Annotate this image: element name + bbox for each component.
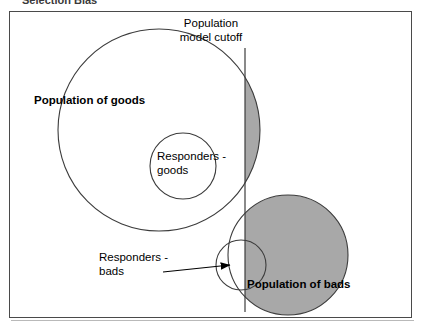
responders-bads-leader-arrow [163,265,230,272]
responders-goods-label-line-2: goods [157,164,189,176]
cutoff-label-line-1: Population [184,17,238,29]
diagram-page: Selection Bias P [0,0,431,328]
population-of-bads-label: Population of bads [247,278,351,290]
responders-bads-label-line-1: Responders - [99,251,168,263]
responders-goods-label-line-1: Responders - [157,150,226,162]
cutoff-label-line-2: model cutoff [180,31,243,43]
selection-bias-diagram: Population model cutoff Population of go… [0,0,431,328]
responders-bads-label-line-2: bads [99,265,124,277]
population-of-goods-label: Population of goods [34,94,145,106]
population-of-goods-circle [58,29,260,231]
goods-beyond-cutoff-shading [58,29,260,231]
bads-beyond-cutoff-shading [228,195,348,315]
